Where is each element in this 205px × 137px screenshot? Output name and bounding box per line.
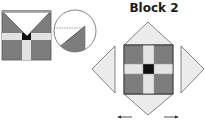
left-block <box>2 11 51 60</box>
detail-circle <box>52 10 96 55</box>
left-triangle <box>92 46 115 93</box>
right-arrow-icon <box>164 116 179 119</box>
quilt-diagram <box>0 0 205 137</box>
block-2 <box>92 22 204 115</box>
center-cornerstone <box>143 64 154 74</box>
right-triangle <box>181 46 204 93</box>
left-arrow-icon <box>117 116 132 119</box>
top-triangle <box>124 22 173 45</box>
bottom-triangle <box>124 94 173 115</box>
